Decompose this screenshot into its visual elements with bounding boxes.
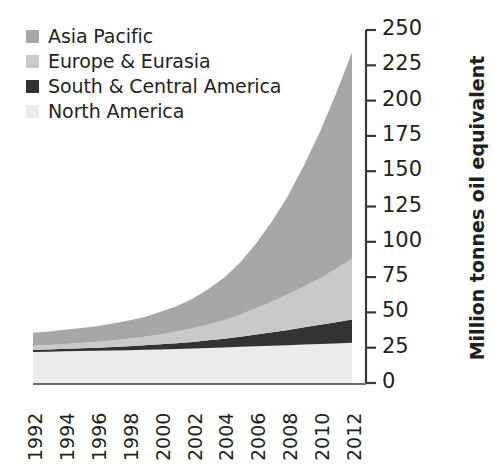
x-tick-label-1992: 1992 — [26, 413, 45, 461]
x-tick-label-2012: 2012 — [345, 413, 364, 461]
x-tick-label-2008: 2008 — [281, 413, 300, 461]
x-tick-label-1996: 1996 — [90, 413, 109, 461]
legend-item-north-america: North America — [26, 99, 281, 124]
y-axis-title: Million tonnes oil equivalent — [464, 30, 490, 385]
x-tick-label-2010: 2010 — [313, 413, 332, 461]
legend-swatch-asia-pacific — [26, 30, 39, 43]
legend-label-north-america: North America — [48, 102, 184, 121]
y-tick-label-125: 125 — [382, 195, 422, 216]
legend-label-south-central-america: South & Central America — [48, 77, 281, 96]
legend-swatch-north-america — [26, 105, 39, 118]
chart-figure: Asia Pacific Europe & Eurasia South & Ce… — [0, 0, 492, 467]
x-tick-label-2000: 2000 — [154, 413, 173, 461]
y-tick-label-175: 175 — [382, 124, 422, 145]
y-axis-title-text: Million tonnes oil equivalent — [466, 55, 488, 360]
legend-label-asia-pacific: Asia Pacific — [48, 27, 153, 46]
y-tick-label-225: 225 — [382, 53, 422, 74]
legend-item-europe-eurasia: Europe & Eurasia — [26, 49, 281, 74]
y-tick-label-75: 75 — [382, 265, 409, 286]
y-tick-label-100: 100 — [382, 230, 422, 251]
y-tick-label-150: 150 — [382, 159, 422, 180]
y-tick-label-0: 0 — [382, 371, 395, 392]
x-tick-label-2002: 2002 — [186, 413, 205, 461]
y-tick-label-250: 250 — [382, 18, 422, 39]
y-tick-label-200: 200 — [382, 89, 422, 110]
legend-item-asia-pacific: Asia Pacific — [26, 24, 281, 49]
legend-item-south-central-america: South & Central America — [26, 74, 281, 99]
legend-swatch-europe-eurasia — [26, 55, 39, 68]
legend-swatch-south-central-america — [26, 80, 39, 93]
x-tick-label-2004: 2004 — [217, 413, 236, 461]
x-tick-label-1998: 1998 — [122, 413, 141, 461]
x-tick-label-2006: 2006 — [249, 413, 268, 461]
legend-label-europe-eurasia: Europe & Eurasia — [48, 52, 210, 71]
x-tick-label-1994: 1994 — [58, 413, 77, 461]
y-tick-label-25: 25 — [382, 336, 409, 357]
legend: Asia Pacific Europe & Eurasia South & Ce… — [26, 24, 281, 124]
y-tick-label-50: 50 — [382, 300, 409, 321]
